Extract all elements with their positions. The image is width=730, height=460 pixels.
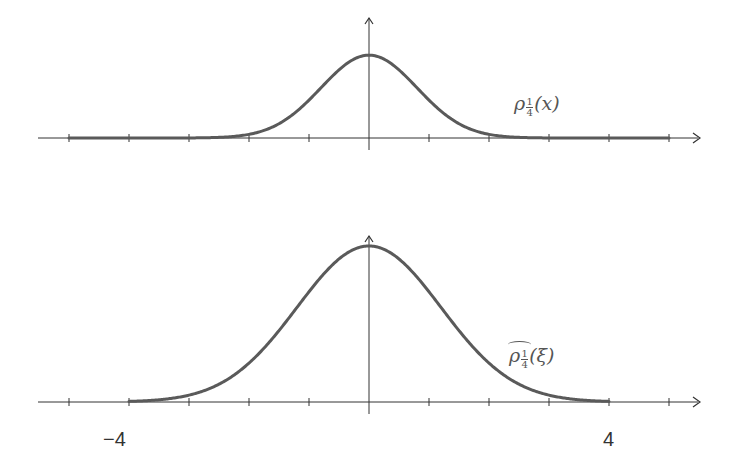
tick-label-4: 4: [603, 428, 614, 451]
tick-label-neg4: −4: [103, 428, 126, 451]
top-plot: [38, 18, 700, 150]
rho-symbol: ρ: [514, 92, 525, 114]
bottom-plot: [38, 236, 700, 414]
argument: (x): [534, 92, 560, 114]
figure: [0, 0, 730, 460]
argument: (ξ): [529, 344, 554, 366]
subscript-fraction: 14: [526, 97, 533, 117]
hat-group: ρ14: [509, 344, 529, 369]
bottom-curve-label: ρ14(ξ): [509, 344, 554, 369]
top-curve-label: ρ14(x): [514, 92, 560, 117]
